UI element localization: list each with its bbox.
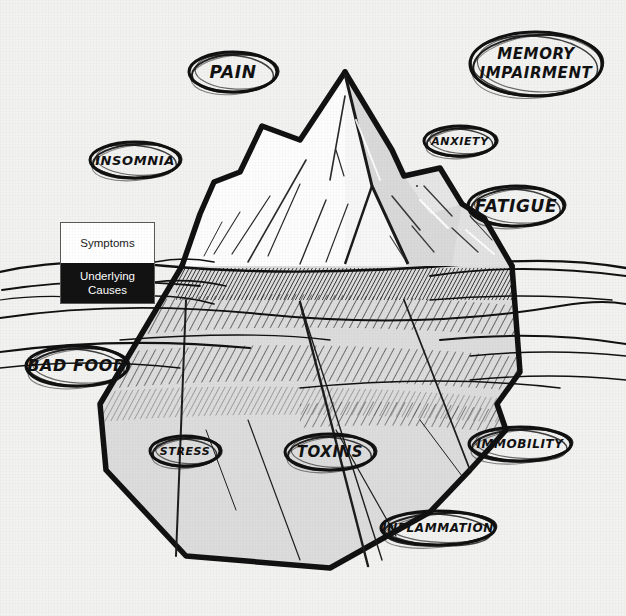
legend-symptoms: Symptoms bbox=[61, 223, 154, 263]
bubble-fatigue[interactable]: FATIGUE bbox=[464, 182, 568, 230]
bubble-label: BAD FOOD bbox=[27, 356, 127, 376]
bubble-label: INSOMNIA bbox=[95, 152, 175, 169]
bubble-label: PAIN bbox=[209, 62, 256, 83]
iceberg-peak bbox=[182, 72, 512, 266]
bubble-immobility[interactable]: IMMOBILITY bbox=[465, 423, 575, 465]
bubble-label: MEMORY IMPAIRMENT bbox=[480, 45, 593, 83]
bubble-memory-impairment[interactable]: MEMORY IMPAIRMENT bbox=[466, 28, 606, 100]
legend-underlying-causes: Underlying Causes bbox=[61, 263, 154, 303]
bubble-inflammation[interactable]: INFLAMMATION bbox=[377, 507, 499, 549]
bubble-insomnia[interactable]: INSOMNIA bbox=[86, 138, 184, 182]
diagram-canvas: Symptoms Underlying Causes PAINMEMORY IM… bbox=[0, 0, 626, 616]
bubble-stress[interactable]: STRESS bbox=[146, 432, 224, 470]
legend-underlying-causes-label: Underlying Causes bbox=[80, 269, 135, 297]
bubble-label: IMMOBILITY bbox=[476, 436, 563, 452]
bubble-label: STRESS bbox=[160, 444, 210, 459]
legend-symptoms-label: Symptoms bbox=[80, 236, 134, 250]
bubble-label: TOXINS bbox=[297, 443, 364, 462]
legend: Symptoms Underlying Causes bbox=[60, 222, 155, 304]
bubble-label: INFLAMMATION bbox=[382, 520, 494, 536]
bubble-bad-food[interactable]: BAD FOOD bbox=[22, 342, 132, 390]
bubble-pain[interactable]: PAIN bbox=[185, 48, 281, 96]
bubble-toxins[interactable]: TOXINS bbox=[281, 430, 379, 474]
bubble-label: FATIGUE bbox=[475, 196, 557, 217]
bubble-label: ANXIETY bbox=[431, 134, 488, 149]
bubble-anxiety[interactable]: ANXIETY bbox=[420, 122, 500, 160]
